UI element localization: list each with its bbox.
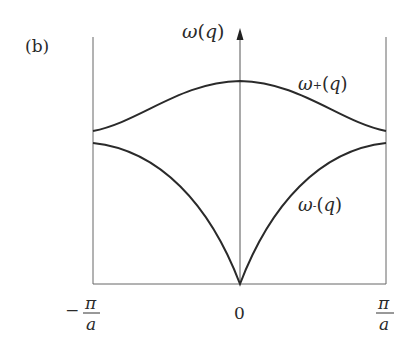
- x-tick-right: π a: [376, 293, 394, 334]
- x-tick-zero: 0: [234, 303, 245, 323]
- x-tick-left: − π a: [65, 293, 100, 334]
- dispersion-diagram: (b) ω(q) ω+(q) ω-(q) − π a 0 π a: [0, 0, 413, 350]
- svg-text:a: a: [86, 314, 96, 334]
- panel-label: (b): [25, 36, 49, 56]
- svg-text:π: π: [84, 293, 97, 313]
- omega-minus-label: ω-(q): [298, 194, 342, 215]
- svg-text:−: −: [65, 300, 79, 320]
- y-axis-label: ω(q): [182, 20, 225, 42]
- svg-text:a: a: [379, 314, 389, 334]
- omega-plus-label: ω+(q): [298, 73, 348, 94]
- svg-text:π: π: [377, 293, 390, 313]
- y-axis-arrow-icon: [237, 28, 244, 40]
